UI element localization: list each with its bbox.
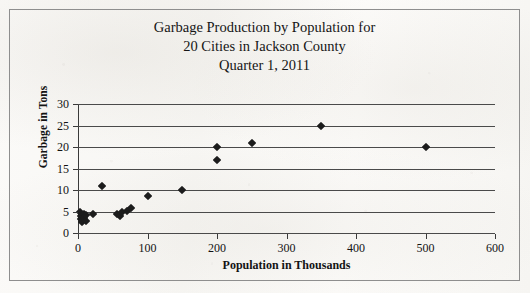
y-axis-tick — [73, 147, 78, 148]
y-axis-tick — [73, 212, 78, 213]
data-point — [178, 186, 186, 194]
chart-title-line-1: Garbage Production by Population for — [9, 18, 520, 37]
x-axis-tick — [148, 234, 149, 239]
x-axis-tick — [495, 234, 496, 239]
y-axis-tick — [73, 169, 78, 170]
x-axis-title: Population in Thousands — [78, 258, 495, 273]
y-axis-tick-label: 15 — [47, 163, 69, 175]
plot-area — [78, 104, 495, 233]
chart-title-line-2: 20 Cities in Jackson County — [9, 37, 520, 56]
x-axis-tick-label: 400 — [336, 242, 376, 254]
gridline-y — [78, 190, 495, 191]
data-point — [143, 192, 151, 200]
gridline-y — [78, 147, 495, 148]
y-axis-tick — [73, 190, 78, 191]
data-point — [248, 138, 256, 146]
chart-title: Garbage Production by Population for 20 … — [9, 18, 520, 75]
y-axis-tick-label: 10 — [47, 184, 69, 196]
y-axis-tick-label: 0 — [47, 227, 69, 239]
x-axis-tick-label: 0 — [58, 242, 98, 254]
x-axis-tick-label: 100 — [128, 242, 168, 254]
data-point — [317, 121, 325, 129]
chart-title-line-3: Quarter 1, 2011 — [9, 56, 520, 75]
y-axis-tick-label: 5 — [47, 206, 69, 218]
gridline-y — [78, 104, 495, 105]
x-axis-tick — [217, 234, 218, 239]
x-axis-tick — [426, 234, 427, 239]
y-axis-tick — [73, 126, 78, 127]
gridline-y — [78, 212, 495, 213]
x-axis-tick-label: 200 — [197, 242, 237, 254]
data-point — [213, 156, 221, 164]
x-axis-tick-label: 300 — [267, 242, 307, 254]
y-axis-tick-label: 25 — [47, 120, 69, 132]
gridline-y — [78, 126, 495, 127]
gridline-y — [78, 169, 495, 170]
x-axis-tick-label: 600 — [475, 242, 515, 254]
x-axis-tick — [287, 234, 288, 239]
y-axis-tick-label: 30 — [47, 98, 69, 110]
x-axis-tick — [78, 234, 79, 239]
y-axis-tick-label: 20 — [47, 141, 69, 153]
data-point — [213, 143, 221, 151]
x-axis-tick — [356, 234, 357, 239]
data-point — [421, 143, 429, 151]
x-axis-tick-label: 500 — [406, 242, 446, 254]
y-axis-tick — [73, 104, 78, 105]
data-point — [98, 181, 106, 189]
